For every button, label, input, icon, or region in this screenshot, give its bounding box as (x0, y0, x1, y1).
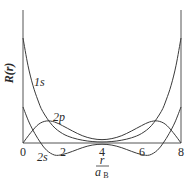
x-axis-label-denominator: a (95, 165, 101, 179)
curve-2p (23, 121, 181, 143)
x-axis-label-subscript: B (103, 171, 108, 180)
tick-0: 0 (20, 145, 26, 159)
x-axis-label-a: a (95, 165, 101, 179)
tick-6: 6 (139, 145, 145, 159)
tick-2: 2 (60, 145, 66, 159)
curve-1s (23, 38, 181, 142)
label-2p: 2p (53, 110, 65, 124)
tick-8: 8 (178, 145, 184, 159)
y-axis-label: R(r) (2, 63, 16, 85)
label-2s: 2s (37, 150, 48, 164)
radial-function-chart: 1s 2p 2s 0 2 4 6 8 R(r) r a B (0, 0, 194, 185)
label-1s: 1s (34, 75, 45, 89)
